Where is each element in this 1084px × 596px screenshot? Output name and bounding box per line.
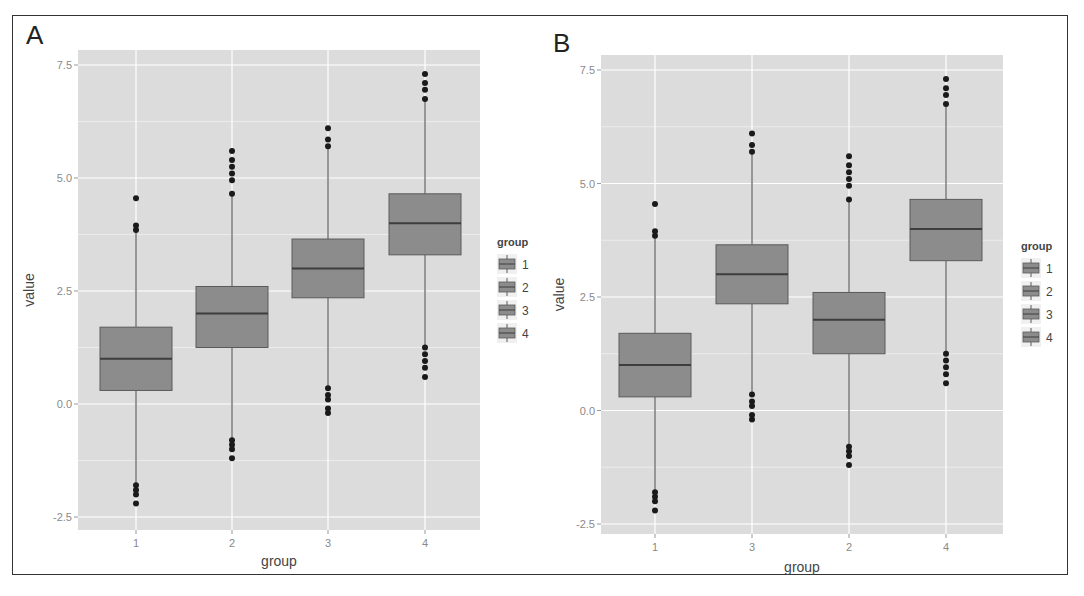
legend-title: group <box>1021 240 1052 252</box>
y-tick-label: 7.5 <box>57 59 72 71</box>
x-tick-label: 3 <box>325 537 331 549</box>
outlier-point <box>943 371 949 377</box>
outlier-point <box>652 201 658 207</box>
outlier-point <box>325 396 331 402</box>
x-tick-label: 4 <box>943 541 949 553</box>
outlier-point <box>229 177 235 183</box>
outlier-point <box>846 196 852 202</box>
outlier-point <box>652 498 658 504</box>
y-tick-label: 0.0 <box>57 398 72 410</box>
outlier-point <box>943 351 949 357</box>
outlier-point <box>325 385 331 391</box>
outlier-point <box>133 222 139 228</box>
legend-label: 4 <box>522 327 529 341</box>
y-tick-label: -2.5 <box>53 511 72 523</box>
outlier-point <box>422 374 428 380</box>
outlier-point <box>846 453 852 459</box>
legend-label: 3 <box>1046 308 1053 322</box>
legend-item-3: 3 <box>497 300 529 320</box>
legend-title: group <box>497 236 528 248</box>
y-tick-label: -2.5 <box>576 518 595 530</box>
x-tick-label: 1 <box>133 537 139 549</box>
y-tick-label: 0.0 <box>580 405 595 417</box>
y-tick-label: 2.5 <box>580 291 595 303</box>
outlier-point <box>652 228 658 234</box>
y-tick-label: 2.5 <box>57 285 72 297</box>
outlier-point <box>229 148 235 154</box>
legend-label: 1 <box>522 258 529 272</box>
x-tick-label: 1 <box>652 541 658 553</box>
outlier-point <box>943 76 949 82</box>
outlier-point <box>749 142 755 148</box>
outlier-point <box>325 137 331 143</box>
y-tick-label: 5.0 <box>580 178 595 190</box>
x-tick-label: 2 <box>229 537 235 549</box>
legend-label: 2 <box>1046 285 1053 299</box>
iqr-box <box>813 292 885 353</box>
iqr-box <box>910 199 982 260</box>
panel-b: -2.50.02.55.07.51324groupvaluegroup1234 <box>551 55 1053 575</box>
outlier-point <box>846 176 852 182</box>
outlier-point <box>943 364 949 370</box>
outlier-point <box>325 410 331 416</box>
outlier-point <box>846 169 852 175</box>
legend: group1234 <box>497 236 529 343</box>
legend-label: 2 <box>522 281 529 295</box>
outlier-point <box>422 80 428 86</box>
outlier-point <box>846 153 852 159</box>
outlier-point <box>133 500 139 506</box>
legend-item-2: 2 <box>497 277 529 297</box>
legend-item-3: 3 <box>1021 304 1053 324</box>
x-axis-title: group <box>784 559 820 575</box>
outlier-point <box>422 96 428 102</box>
legend-item-1: 1 <box>497 254 529 274</box>
outlier-point <box>749 131 755 137</box>
y-tick-label: 5.0 <box>57 172 72 184</box>
outlier-point <box>325 125 331 131</box>
outlier-point <box>749 149 755 155</box>
legend-label: 4 <box>1046 331 1053 345</box>
iqr-box <box>196 286 268 347</box>
outlier-point <box>846 183 852 189</box>
y-axis-title: value <box>551 278 567 312</box>
outlier-point <box>943 380 949 386</box>
outlier-point <box>133 195 139 201</box>
outlier-point <box>229 191 235 197</box>
legend-item-4: 4 <box>1021 327 1053 347</box>
outlier-point <box>229 164 235 170</box>
outlier-point <box>846 162 852 168</box>
outlier-point <box>943 101 949 107</box>
outlier-point <box>749 403 755 409</box>
x-axis-title: group <box>261 553 297 569</box>
boxplot-figure: -2.50.02.55.07.51234groupvaluegroup1234-… <box>0 0 1084 596</box>
outlier-point <box>229 446 235 452</box>
y-tick-label: 7.5 <box>580 64 595 76</box>
panel-a: -2.50.02.55.07.51234groupvaluegroup1234 <box>21 50 529 569</box>
legend: group1234 <box>1021 240 1053 347</box>
outlier-point <box>422 351 428 357</box>
legend-item-2: 2 <box>1021 281 1053 301</box>
legend-label: 3 <box>522 304 529 318</box>
x-tick-label: 4 <box>422 537 428 549</box>
outlier-point <box>133 491 139 497</box>
outlier-point <box>422 345 428 351</box>
outlier-point <box>325 143 331 149</box>
legend-item-4: 4 <box>497 323 529 343</box>
outlier-point <box>229 455 235 461</box>
outlier-point <box>846 462 852 468</box>
outlier-point <box>749 417 755 423</box>
outlier-point <box>422 87 428 93</box>
outlier-point <box>422 71 428 77</box>
legend-label: 1 <box>1046 262 1053 276</box>
y-axis-title: value <box>21 273 37 307</box>
x-tick-label: 3 <box>749 541 755 553</box>
outlier-point <box>422 358 428 364</box>
iqr-box <box>389 194 461 255</box>
legend-item-1: 1 <box>1021 258 1053 278</box>
outlier-point <box>229 170 235 176</box>
outlier-point <box>943 358 949 364</box>
outlier-point <box>652 507 658 513</box>
outlier-point <box>422 365 428 371</box>
outlier-point <box>943 85 949 91</box>
outlier-point <box>229 157 235 163</box>
